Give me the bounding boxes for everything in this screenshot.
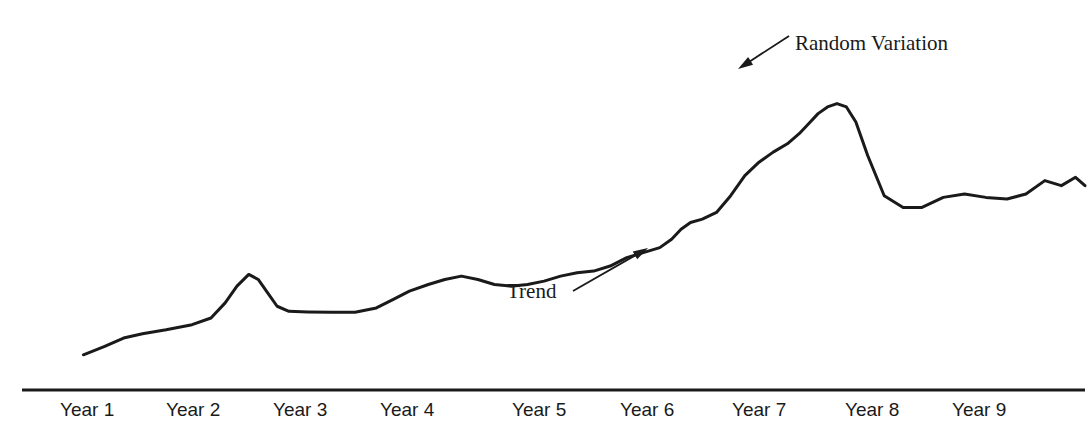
x-axis-label-7: Year 7 (732, 400, 786, 419)
chart-container: Random Variation Trend Year 1Year 2Year … (0, 0, 1091, 443)
x-axis-label-4: Year 4 (380, 400, 434, 419)
x-axis-label-2: Year 2 (166, 400, 220, 419)
x-axis-label-3: Year 3 (273, 400, 327, 419)
x-axis-label-6: Year 6 (620, 400, 674, 419)
x-axis-label-8: Year 8 (845, 400, 899, 419)
random-variation-arrow-head (738, 57, 753, 69)
annotation-random-variation: Random Variation (795, 33, 948, 54)
x-axis-label-5: Year 5 (512, 400, 566, 419)
annotation-trend: Trend (507, 281, 556, 302)
x-axis-label-9: Year 9 (952, 400, 1006, 419)
random-variation-arrow (738, 36, 789, 69)
data-series-line (83, 104, 1085, 355)
random-variation-arrow-shaft (747, 36, 789, 63)
trend-arrow (573, 248, 648, 291)
chart-canvas (0, 0, 1091, 443)
x-axis-label-1: Year 1 (60, 400, 114, 419)
trend-arrow-head (633, 248, 648, 259)
